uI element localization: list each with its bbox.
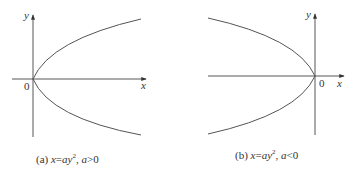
caption-a-prefix: (a) (36, 153, 48, 165)
caption-b-prefix: (b) (235, 149, 248, 161)
caption-b-cond-val: 0 (293, 149, 299, 161)
caption-a-rhs: ay (62, 153, 72, 165)
origin-label-a: 0 (24, 80, 30, 92)
y-axis-label-a: y (23, 9, 29, 21)
caption-a-separator: , (76, 153, 79, 165)
panel-a: y x 0 (12, 9, 146, 137)
parabola-right (33, 19, 141, 135)
panel-b: y x 0 (208, 8, 344, 135)
origin-label-b: 0 (319, 77, 325, 89)
caption-b-rhs: ay (262, 149, 272, 161)
x-axis-label-a: x (140, 79, 146, 91)
x-axis-label-b: x (336, 77, 342, 89)
caption-b-separator: , (276, 149, 279, 161)
caption-a-cond-val: 0 (93, 153, 99, 165)
caption-a: (a) x=ay2, a>0 (36, 152, 99, 165)
y-axis-label-b: y (305, 8, 311, 20)
caption-b: (b) x=ay2, a<0 (235, 148, 298, 161)
